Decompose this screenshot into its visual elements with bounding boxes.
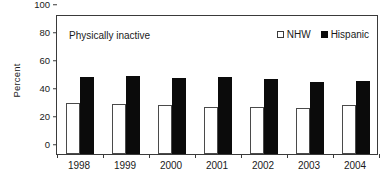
y-axis-tick-label: 20 [39,112,53,122]
bar-nhw-2004 [342,105,356,154]
x-axis-tick-mark [149,154,150,158]
bar-nhw-2000 [158,105,172,154]
bar-group [296,16,324,154]
y-axis-tick-mark [53,144,57,145]
bar-nhw-2001 [204,107,218,154]
y-axis-tick-mark [53,60,57,61]
y-axis-title: Percent [8,0,24,160]
y-axis-tick-mark [53,116,57,117]
y-axis-tick-label: 60 [39,56,53,66]
x-axis-label-1999: 1999 [114,160,136,171]
x-axis-label-1998: 1998 [68,160,90,171]
x-axis-tick-mark [379,154,380,158]
y-axis-tick-label: 100 [34,0,53,9]
x-axis-tick-mark [333,154,334,158]
x-axis-label-2003: 2003 [298,160,320,171]
bar-nhw-1998 [66,103,80,154]
bar-hispanic-1998 [80,77,94,154]
bar-group [204,16,232,154]
plot-area: Physically inactive NHWHispanic 02040608… [56,15,378,155]
bar-nhw-2002 [250,107,264,154]
y-axis-tick: 20 [39,112,57,122]
bar-group [250,16,278,154]
x-axis-tick-mark [287,154,288,158]
bar-group [112,16,140,154]
y-axis-title-text: Percent [11,63,22,97]
bar-group [342,16,370,154]
y-axis-tick-mark [53,32,57,33]
y-axis-tick: 0 [45,140,57,150]
y-axis-tick-mark [53,4,57,5]
bar-hispanic-2004 [356,81,370,154]
y-axis-tick-label: 0 [45,140,53,150]
x-axis-tick-mark [241,154,242,158]
bar-nhw-2003 [296,108,310,154]
x-axis-tick-mark [195,154,196,158]
x-axis-label-2004: 2004 [344,160,366,171]
bar-group [66,16,94,154]
x-axis-label-2000: 2000 [160,160,182,171]
x-axis-tick-mark [57,154,58,158]
y-axis-tick-label: 80 [39,28,53,38]
y-axis-tick: 60 [39,56,57,66]
bar-group [158,16,186,154]
bar-nhw-1999 [112,104,126,154]
y-axis-tick-mark [53,88,57,89]
y-axis-tick-label: 40 [39,84,53,94]
bar-hispanic-2001 [218,77,232,154]
y-axis-tick: 80 [39,28,57,38]
bar-hispanic-2000 [172,78,186,154]
y-axis-tick: 40 [39,84,57,94]
x-axis-tick-mark [103,154,104,158]
y-axis-tick: 100 [34,0,57,9]
bar-hispanic-2003 [310,82,324,154]
chart-figure: Percent Physically inactive NHWHispanic … [0,0,388,188]
x-axis-label-2002: 2002 [252,160,274,171]
bar-hispanic-2002 [264,79,278,154]
x-axis-label-2001: 2001 [206,160,228,171]
bar-hispanic-1999 [126,76,140,154]
